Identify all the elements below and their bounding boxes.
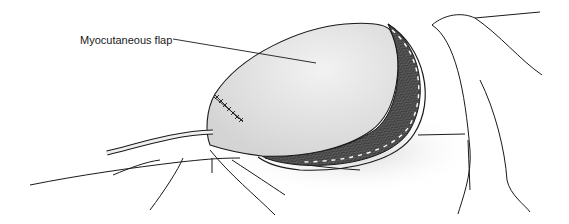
illustration: Myocutaneous flap — [0, 0, 569, 224]
drain-tube — [107, 132, 213, 153]
flap-label: Myocutaneous flap — [80, 34, 172, 46]
